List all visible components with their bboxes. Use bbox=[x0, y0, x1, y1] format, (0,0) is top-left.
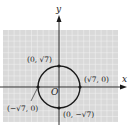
coordinate-plane: x y O (0, √7) (√7, 0) (−√7, 0) (0, −√7) bbox=[0, 0, 129, 127]
point-right bbox=[78, 85, 81, 88]
x-axis-arrow-icon bbox=[120, 85, 127, 90]
y-axis-arrow-icon bbox=[57, 15, 62, 22]
label-right-point: (√7, 0) bbox=[84, 75, 109, 84]
label-left-point: (−√7, 0) bbox=[7, 104, 38, 113]
point-left bbox=[36, 85, 39, 88]
point-bottom bbox=[57, 106, 60, 109]
x-axis-label: x bbox=[122, 74, 127, 84]
y-axis-label: y bbox=[55, 4, 62, 14]
label-bottom-point: (0, −√7) bbox=[63, 110, 94, 119]
point-top bbox=[57, 64, 60, 67]
label-top-point: (0, √7) bbox=[27, 55, 52, 64]
origin-label: O bbox=[51, 87, 59, 97]
